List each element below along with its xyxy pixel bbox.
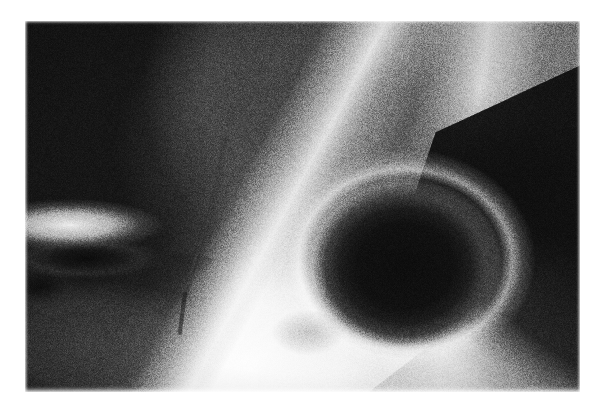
radiograph-viewer [0,0,608,408]
film-edge-feather [25,21,580,392]
radiograph-image [25,21,580,392]
